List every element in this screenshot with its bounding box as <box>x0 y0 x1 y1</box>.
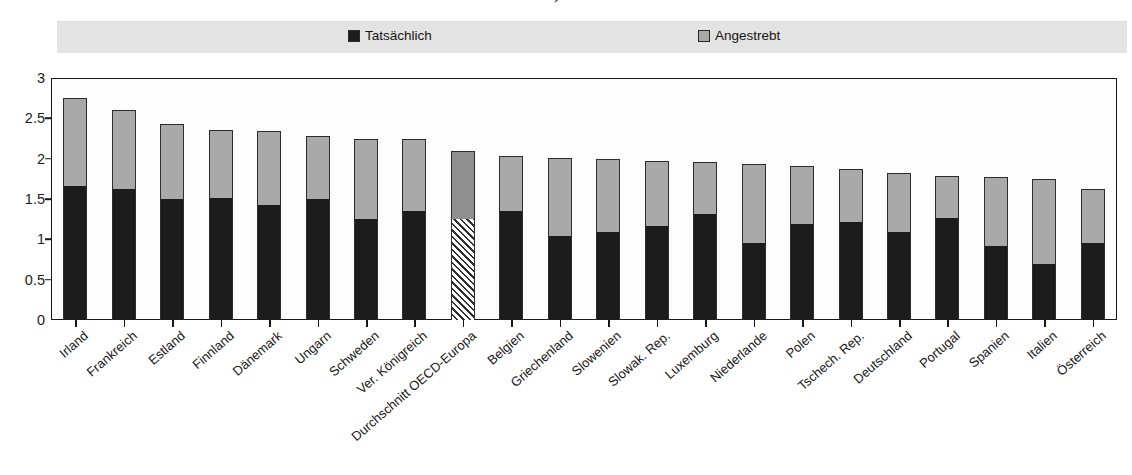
x-axis-ticks <box>51 320 1117 328</box>
bar-segment-angestrebt <box>257 131 281 205</box>
x-axis-label-10: Belgien <box>485 328 528 368</box>
bar-20 <box>984 78 1008 320</box>
bar-segment-tatsaechlich <box>451 219 475 320</box>
bar-segment-angestrebt <box>1081 189 1105 243</box>
bar-segment-tatsaechlich <box>548 236 572 320</box>
x-tick-mark <box>754 320 756 327</box>
bar-segment-angestrebt <box>306 136 330 199</box>
bar-segment-angestrebt <box>354 139 378 220</box>
x-axis-label-text: Dänemark <box>230 328 285 379</box>
x-axis-label-16: Polen <box>783 328 818 361</box>
bar-15 <box>742 78 766 320</box>
bar-segment-tatsaechlich <box>402 211 426 320</box>
bar-segment-tatsaechlich <box>839 222 863 320</box>
x-tick-mark <box>269 320 271 327</box>
bar-segment-angestrebt <box>112 110 136 188</box>
bar-21 <box>1032 78 1056 320</box>
x-tick-mark <box>705 320 707 327</box>
bar-segment-angestrebt <box>887 173 911 232</box>
x-axis-label-22: Österreich <box>1054 328 1109 379</box>
bar-segment-tatsaechlich <box>887 232 911 320</box>
bar-18 <box>887 78 911 320</box>
bar-segment-tatsaechlich <box>790 224 814 320</box>
bar-segment-angestrebt <box>935 176 959 217</box>
bar-segment-angestrebt <box>790 166 814 224</box>
bar-segment-angestrebt <box>451 151 475 219</box>
bar-segment-angestrebt <box>548 158 572 236</box>
x-axis-label-19: Portugal <box>917 328 963 371</box>
bar-segment-tatsaechlich <box>257 205 281 320</box>
bar-segment-angestrebt <box>402 139 426 212</box>
x-axis-label-text: Italien <box>1024 328 1060 362</box>
chart-title: …durchschnittliche Kinderzahl, Frauen im… <box>0 0 1132 4</box>
bar-segment-angestrebt <box>160 124 184 199</box>
bar-segment-tatsaechlich <box>209 198 233 320</box>
x-tick-mark <box>802 320 804 327</box>
bar-segment-tatsaechlich <box>742 243 766 320</box>
bar-segment-tatsaechlich <box>306 199 330 320</box>
legend-item-angestrebt: Angestrebt <box>698 28 780 43</box>
x-axis-label-text: Polen <box>783 328 818 361</box>
x-axis-label-2: Frankreich <box>83 328 139 380</box>
bar-22 <box>1081 78 1105 320</box>
bar-segment-angestrebt <box>742 164 766 243</box>
x-axis-label-4: Finnland <box>189 328 236 372</box>
bar-6 <box>306 78 330 320</box>
x-tick-mark <box>657 320 659 327</box>
x-axis-label-5: Dänemark <box>230 328 285 379</box>
x-axis-label-text: Irland <box>57 328 91 361</box>
bar-segment-tatsaechlich <box>1081 243 1105 320</box>
x-tick-mark <box>1093 320 1095 327</box>
x-axis-label-text: Spanien <box>966 328 1012 371</box>
bar-segment-angestrebt <box>209 130 233 199</box>
x-axis-label-text: Frankreich <box>83 328 139 380</box>
x-tick-mark <box>318 320 320 327</box>
bar-12 <box>596 78 620 320</box>
x-axis-label-text: Finnland <box>189 328 236 372</box>
bar-19 <box>935 78 959 320</box>
bar-9 <box>451 78 475 320</box>
x-axis-label-text: Österreich <box>1054 328 1109 379</box>
bar-segment-angestrebt <box>693 162 717 214</box>
x-axis-label-1: Irland <box>57 328 91 361</box>
bar-segment-angestrebt <box>839 169 863 221</box>
legend-label-tatsaechlich: Tatsächlich <box>365 28 432 43</box>
x-tick-mark <box>124 320 126 327</box>
x-axis-label-21: Italien <box>1024 328 1060 362</box>
x-tick-mark <box>221 320 223 327</box>
bars-layer <box>51 78 1117 320</box>
black-square-icon <box>348 30 360 42</box>
x-tick-mark <box>172 320 174 327</box>
bar-segment-tatsaechlich <box>160 199 184 320</box>
bar-segment-angestrebt <box>645 161 669 226</box>
bar-13 <box>645 78 669 320</box>
y-tick-label: 1 <box>37 231 45 247</box>
bar-10 <box>499 78 523 320</box>
bar-segment-tatsaechlich <box>596 232 620 320</box>
bar-segment-tatsaechlich <box>693 214 717 320</box>
x-axis-labels: IrlandFrankreichEstlandFinnlandDänemarkU… <box>51 328 1117 468</box>
x-axis-label-text: Portugal <box>917 328 963 371</box>
bar-16 <box>790 78 814 320</box>
x-tick-mark <box>851 320 853 327</box>
x-tick-mark <box>463 320 465 327</box>
x-tick-mark <box>947 320 949 327</box>
bar-1 <box>63 78 87 320</box>
bar-5 <box>257 78 281 320</box>
x-axis-label-20: Spanien <box>966 328 1012 371</box>
x-tick-mark <box>1044 320 1046 327</box>
y-axis: 00.511.522.53 <box>0 78 45 320</box>
x-tick-mark <box>608 320 610 327</box>
x-tick-mark <box>899 320 901 327</box>
gray-square-icon <box>698 30 710 42</box>
x-tick-mark <box>996 320 998 327</box>
bar-segment-tatsaechlich <box>354 219 378 320</box>
bar-segment-tatsaechlich <box>112 189 136 320</box>
y-tick-label: 2.5 <box>25 110 45 126</box>
bar-segment-angestrebt <box>63 98 87 186</box>
bar-segment-angestrebt <box>499 156 523 211</box>
y-tick-label: 0 <box>37 312 45 328</box>
bar-segment-tatsaechlich <box>63 186 87 320</box>
bar-17 <box>839 78 863 320</box>
bar-7 <box>354 78 378 320</box>
